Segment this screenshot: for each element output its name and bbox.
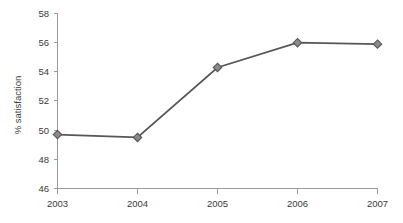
y-tick-label: 54 <box>38 66 49 77</box>
x-tick-label: 2003 <box>47 198 68 209</box>
y-tick-label: 48 <box>38 154 49 165</box>
y-tick-label: 46 <box>38 183 49 194</box>
y-axis-title: % satisfaction <box>12 76 23 135</box>
x-tick-label: 2007 <box>367 198 388 209</box>
y-tick-label: 50 <box>38 125 49 136</box>
y-tick-label: 58 <box>38 8 49 19</box>
x-tick-label: 2006 <box>287 198 308 209</box>
x-tick-label: 2004 <box>127 198 148 209</box>
y-tick-label: 52 <box>38 95 49 106</box>
chart-background <box>0 0 403 223</box>
chart-page: 58 56 54 52 50 48 46 2003 2004 2005 2006… <box>0 0 403 223</box>
y-tick-label: 56 <box>38 37 49 48</box>
x-tick-label: 2005 <box>207 198 228 209</box>
line-chart: 58 56 54 52 50 48 46 2003 2004 2005 2006… <box>0 0 403 223</box>
